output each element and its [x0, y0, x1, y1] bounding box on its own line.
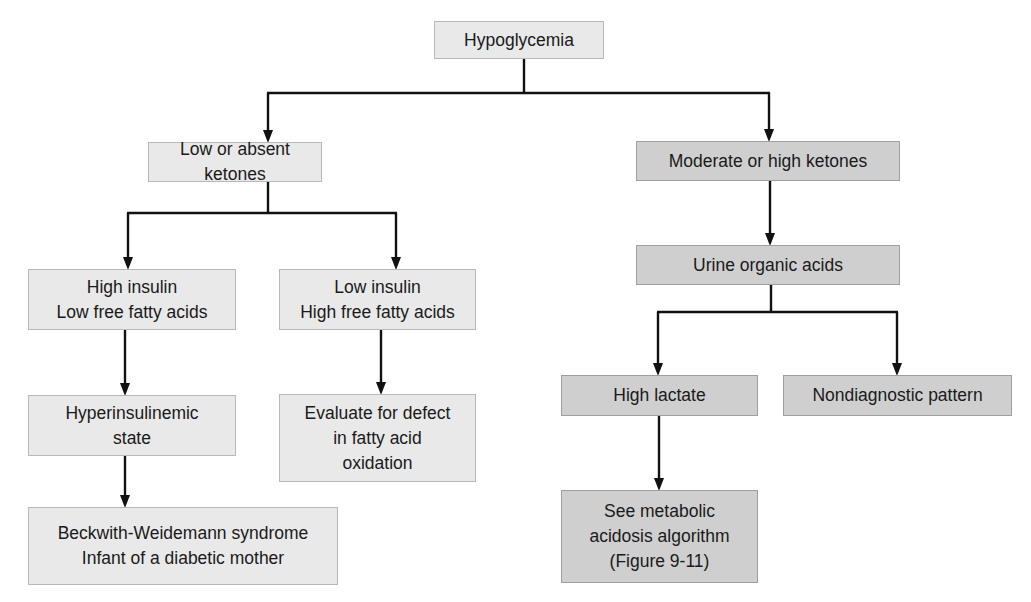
node-low-insulin: Low insulin High free fatty acids — [279, 269, 476, 330]
node-label: Nondiagnostic pattern — [812, 383, 982, 408]
node-label: Low or absent ketones — [149, 137, 321, 187]
node-label: Hypoglycemia — [464, 28, 574, 53]
node-nondiagnostic: Nondiagnostic pattern — [783, 375, 1012, 416]
node-label: Hyperinsulinemic state — [65, 401, 198, 451]
node-hypoglycemia: Hypoglycemia — [434, 21, 604, 59]
node-label: High insulin Low free fatty acids — [57, 275, 208, 325]
node-label: See metabolic acidosis algorithm (Figure… — [589, 499, 729, 574]
node-high-lactate: High lactate — [561, 375, 758, 416]
node-urine-organic-acids: Urine organic acids — [636, 245, 900, 285]
node-metabolic-acidosis: See metabolic acidosis algorithm (Figure… — [561, 490, 758, 583]
node-beckwith: Beckwith-Weidemann syndrome Infant of a … — [28, 507, 338, 585]
node-label: Moderate or high ketones — [669, 149, 867, 174]
node-label: High lactate — [613, 383, 705, 408]
node-low-ketones: Low or absent ketones — [148, 142, 322, 182]
node-label: Evaluate for defect in fatty acid oxidat… — [305, 401, 451, 476]
node-label: Urine organic acids — [693, 253, 843, 278]
node-high-insulin: High insulin Low free fatty acids — [28, 269, 236, 330]
node-hyperinsulinemic: Hyperinsulinemic state — [28, 395, 236, 456]
node-label: Beckwith-Weidemann syndrome Infant of a … — [58, 521, 309, 571]
node-high-ketones: Moderate or high ketones — [636, 141, 900, 181]
node-label: Low insulin High free fatty acids — [300, 275, 455, 325]
node-evaluate-fao: Evaluate for defect in fatty acid oxidat… — [279, 394, 476, 482]
